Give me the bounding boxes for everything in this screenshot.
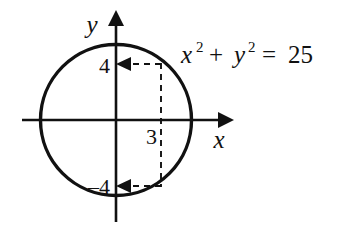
equation-plus-sign: + (209, 41, 223, 68)
equation-exponent-y: 2 (248, 39, 256, 55)
y-negative-tick-label: –4 (87, 174, 110, 199)
y-positive-tick-label: 4 (99, 53, 110, 78)
equation-var-x: x (180, 41, 192, 68)
x-axis-label: x (212, 126, 224, 153)
upper-left-arrowhead-icon (116, 57, 131, 71)
lower-left-arrowhead-icon (116, 179, 131, 193)
y-axis-label: y (83, 11, 98, 38)
equation-var-y: y (231, 41, 246, 68)
circle-equation-figure: y x 4 –4 3 x 2 + y 2 = 25 (0, 0, 339, 227)
y-axis-arrowhead-icon (108, 10, 124, 26)
equation-group: x 2 + y 2 = 25 (180, 39, 313, 68)
figure-canvas: y x 4 –4 3 x 2 + y 2 = 25 (0, 0, 339, 227)
x-value-tick-label: 3 (146, 124, 157, 149)
equation-value: 25 (288, 41, 313, 68)
equation-exponent-x: 2 (196, 39, 204, 55)
equation-equals-sign: = (262, 41, 276, 68)
